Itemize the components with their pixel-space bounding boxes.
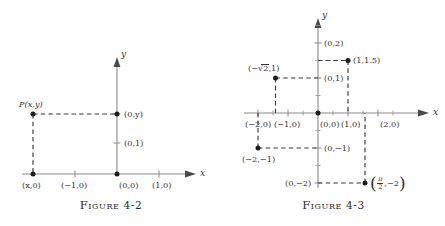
y-axis-arrowhead [114, 57, 121, 67]
y-axis-label-0-minus2: (0,−2) [285, 179, 311, 187]
figure-4-3-caption-number: 4-3 [346, 199, 365, 211]
point-label-neg-sqrt2-1: (−√2,1) [248, 64, 280, 72]
x-axis-label-minus1-0: (−1,0) [274, 120, 300, 128]
point-x-0 [31, 172, 36, 177]
figure-4-2: x y P(x,y) (0,y) (0,1) (x,0) (−1,0) (0,0… [0, 0, 222, 226]
point-label-1-15: (1,1.5) [353, 56, 380, 64]
x-axis-label-x-0: (x,0) [22, 181, 41, 189]
radical-overbar [261, 64, 268, 65]
radical-sign-group: √2 [258, 64, 268, 72]
x-axis-arrowhead [418, 110, 429, 117]
point-neg-sqrt2-1 [273, 76, 278, 81]
point-origin [316, 111, 321, 116]
figure-4-3: x y (0,2) (0,1) (0,−1) (0,−2) (−2,0) (−1… [222, 0, 445, 226]
x-axis-name: x [433, 108, 438, 117]
x-axis-label-minus1-0: (−1,0) [61, 181, 87, 189]
x-axis-label-0-0: (0,0) [320, 120, 339, 128]
x-axis-label-1-0: (1,0) [152, 181, 171, 189]
y-axis-label-0-2: (0,2) [324, 39, 343, 47]
x-axis-label-1-0: (1,0) [341, 120, 360, 128]
y-axis-label-0-1: (0,1) [324, 74, 343, 82]
y-axis-label-0-y: (0,y) [124, 110, 143, 118]
y-axis-label-0-1: (0,1) [124, 139, 143, 147]
figure-4-2-caption: Figure4-2 [0, 198, 222, 212]
left-paren: ( [370, 177, 377, 190]
point-label-sqrt-suffix: ,1) [269, 63, 280, 73]
point-label-pi-over-2-neg2: (π2,−2) [370, 176, 406, 190]
x-axis-label-minus2-0: (−2,0) [245, 120, 271, 128]
point-neg2-neg1 [256, 146, 261, 151]
point-1-15 [346, 58, 351, 63]
point-P-xy [31, 112, 36, 117]
y-axis-name: y [322, 11, 327, 20]
fraction-numerator: π [377, 176, 383, 183]
point-origin [115, 172, 120, 177]
point-pi-over-2-neg2 [363, 181, 368, 186]
point-label-neg2-neg1: (−2,−1) [242, 155, 275, 163]
figure-4-2-plot: x y P(x,y) (0,y) (0,1) (x,0) (−1,0) (0,0… [0, 0, 222, 196]
x-axis-arrowhead [185, 171, 196, 178]
figure-4-2-caption-word: Figure [80, 198, 120, 212]
figure-4-2-svg [0, 0, 222, 196]
y-axis-arrowhead [315, 18, 322, 28]
fraction-pi-over-2: π2 [377, 176, 383, 190]
x-axis-name: x [200, 169, 205, 178]
right-paren: ) [399, 177, 406, 190]
y-axis-label-0-minus1: (0,−1) [324, 144, 350, 152]
figure-4-3-caption: Figure4-3 [222, 198, 445, 212]
point-0-y [115, 112, 120, 117]
x-axis-label-2-0: (2,0) [380, 120, 399, 128]
figure-4-3-caption-word: Figure [302, 198, 342, 212]
point-label-P-xy: P(x,y) [19, 100, 43, 108]
figure-4-2-caption-number: 4-2 [124, 199, 143, 211]
y-axis-name: y [121, 50, 126, 59]
figure-4-3-svg [222, 0, 445, 196]
fraction-denominator: 2 [377, 183, 383, 191]
point-label-pi-rest: ,−2 [384, 179, 399, 187]
radicand: 2 [263, 63, 268, 73]
figure-4-3-plot: x y (0,2) (0,1) (0,−1) (0,−2) (−2,0) (−1… [222, 0, 445, 196]
point-label-sqrt-prefix: (− [248, 63, 258, 73]
x-axis-label-0-0: (0,0) [119, 181, 138, 189]
